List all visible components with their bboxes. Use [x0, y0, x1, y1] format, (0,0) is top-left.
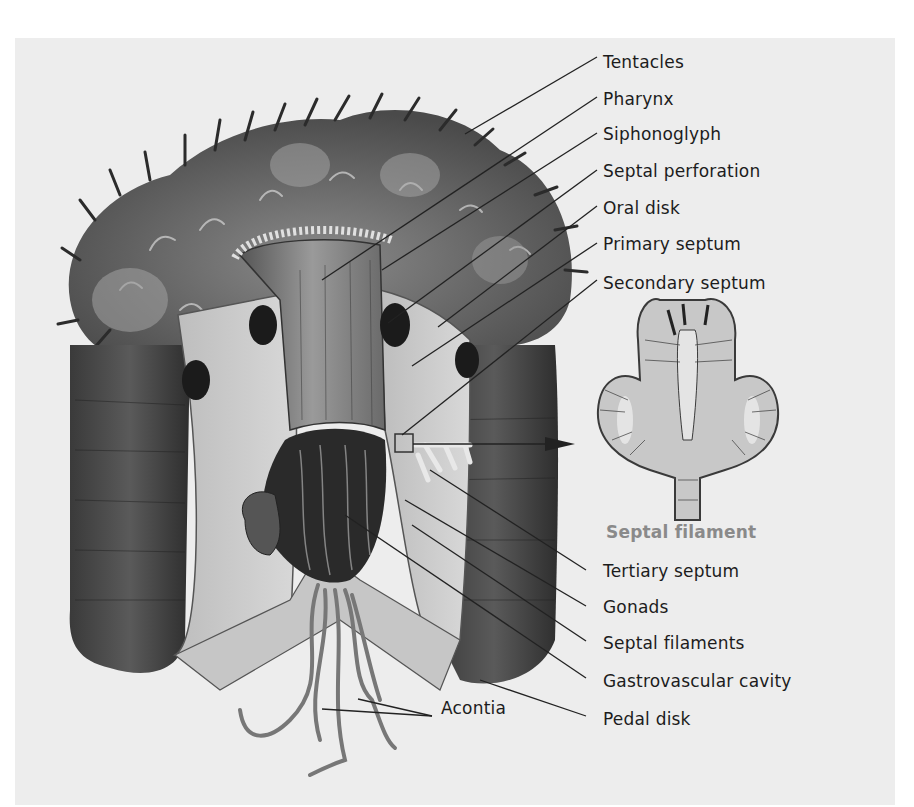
label-gastrovascular-cavity: Gastrovascular cavity [603, 671, 792, 691]
label-oral-disk: Oral disk [603, 198, 680, 218]
label-tentacles: Tentacles [603, 52, 684, 72]
label-siphonoglyph: Siphonoglyph [603, 124, 721, 144]
label-gonads: Gonads [603, 597, 669, 617]
label-acontia: Acontia [441, 698, 506, 718]
label-septal-perforation: Septal perforation [603, 161, 760, 181]
label-pharynx: Pharynx [603, 89, 674, 109]
perforation-1 [182, 360, 210, 400]
label-pedal-disk: Pedal disk [603, 709, 691, 729]
label-septal-filaments: Septal filaments [603, 633, 745, 653]
body-column-left [70, 345, 190, 673]
label-septal-filament-inset: Septal filament [606, 522, 756, 542]
perforation-4 [455, 342, 479, 378]
septal-filament-inset [598, 299, 778, 520]
label-primary-septum: Primary septum [603, 234, 741, 254]
perforation-2 [249, 305, 277, 345]
leader-line-tentacles [465, 57, 597, 134]
label-tertiary-septum: Tertiary septum [603, 561, 739, 581]
label-secondary-septum: Secondary septum [603, 273, 766, 293]
